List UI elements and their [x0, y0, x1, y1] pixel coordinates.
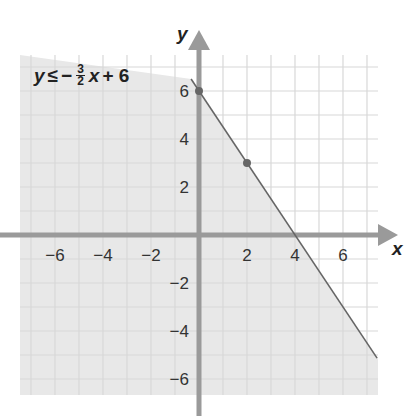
y-tick-label: 4 [180, 130, 189, 149]
inequality-lhs: y [34, 65, 45, 87]
coordinate-plane: −6−4−2246 642−2−4−6 x y [0, 0, 419, 416]
x-tick-label: −4 [93, 246, 112, 265]
x-tick-label: 2 [242, 246, 251, 265]
inequality-rest: + 6 [102, 65, 129, 87]
data-point [195, 87, 203, 95]
x-axis-label: x [391, 238, 404, 259]
inequality-sign: − [61, 65, 72, 87]
inequality-var: x [89, 65, 100, 87]
y-tick-label: 6 [180, 82, 189, 101]
inequality-relation: ≤ [48, 65, 58, 87]
x-tick-label: 6 [338, 246, 347, 265]
y-tick-label: 2 [180, 178, 189, 197]
fraction-denominator: 2 [77, 76, 84, 87]
x-tick-label: 4 [290, 246, 299, 265]
y-tick-label: −2 [170, 274, 189, 293]
y-tick-label: −6 [170, 370, 189, 389]
y-axis-arrow-icon [188, 30, 210, 50]
x-tick-label: −6 [45, 246, 64, 265]
y-tick-label: −4 [170, 322, 189, 341]
data-point [243, 159, 251, 167]
y-axis-label: y [176, 23, 189, 44]
x-tick-label: −2 [141, 246, 160, 265]
inequality-label: y ≤ − 3 2 x + 6 [34, 64, 129, 87]
fraction: 3 2 [76, 64, 85, 87]
